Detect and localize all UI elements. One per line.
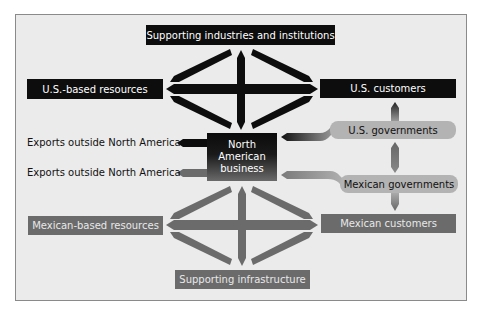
north-american-business-box: North American business (207, 133, 277, 181)
mexican-governments-box: Mexican governments (340, 175, 458, 193)
us-resources-box: U.S.-based resources (27, 79, 163, 99)
us-resources-label: U.S.-based resources (42, 84, 147, 95)
exports-label-2: Exports outside North America (27, 167, 181, 178)
us-gov-to-customer-arrow (391, 102, 399, 121)
mexican-connectors (166, 169, 318, 266)
us-governments-label: U.S. governments (348, 125, 437, 136)
center-line-1: North (228, 139, 256, 151)
mx-gov-to-customer-arrow (391, 193, 399, 211)
us-customers-box: U.S. customers (320, 79, 456, 98)
mexican-government-connector (281, 171, 344, 188)
supporting-infrastructure-box: Supporting infrastructure (175, 270, 310, 289)
us-governments-box: U.S. governments (330, 121, 456, 139)
mexican-customers-label: Mexican customers (340, 218, 437, 229)
us-government-connector (281, 124, 334, 141)
exports-label-1: Exports outside North America (27, 137, 181, 148)
center-line-3: business (220, 163, 264, 175)
center-line-2: American (218, 151, 266, 163)
mexican-customers-box: Mexican customers (321, 214, 456, 233)
us-customers-label: U.S. customers (350, 83, 426, 94)
mexican-governments-label: Mexican governments (344, 179, 455, 190)
supporting-industries-label: Supporting industries and institutions (146, 30, 334, 41)
supporting-industries-box: Supporting industries and institutions (146, 25, 335, 45)
gov-link-arrow (391, 142, 399, 173)
mexican-resources-label: Mexican-based resources (32, 220, 159, 231)
mexican-resources-box: Mexican-based resources (28, 216, 163, 235)
supporting-infrastructure-label: Supporting infrastructure (179, 274, 305, 285)
